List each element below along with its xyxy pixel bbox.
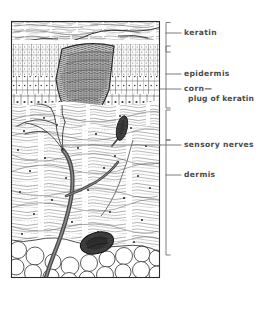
- tissue-block: [8, 18, 165, 300]
- label-sensory-nerves: sensory nerves: [184, 140, 254, 149]
- diagram-canvas: keratin epidermis corn— plug of keratin …: [0, 0, 259, 310]
- label-dermis: dermis: [184, 170, 216, 179]
- dermis-layer: [8, 100, 164, 256]
- label-keratin: keratin: [184, 28, 217, 37]
- label-corn-detail: plug of keratin: [188, 94, 254, 103]
- label-epidermis: epidermis: [184, 69, 230, 78]
- label-corn: corn—: [184, 84, 212, 93]
- skin-cross-section-figure: keratin epidermis corn— plug of keratin …: [0, 0, 259, 310]
